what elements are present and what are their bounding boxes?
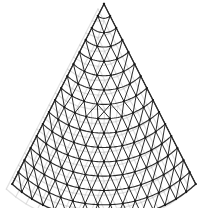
- cone-mesh-diagram: [0, 0, 207, 208]
- figure-root: [0, 0, 207, 208]
